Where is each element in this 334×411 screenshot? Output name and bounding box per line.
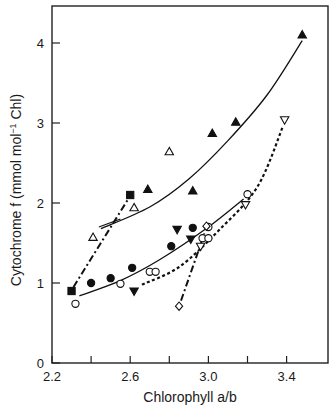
- triangle-up-filled-marker: [189, 187, 197, 194]
- y-tick-label: 0: [37, 356, 44, 371]
- triangle-up-open-marker: [130, 203, 138, 210]
- curve-solid: [79, 199, 243, 296]
- x-tick-label: 2.6: [121, 369, 139, 384]
- circle-open-marker: [152, 268, 159, 275]
- circle-filled-marker: [168, 243, 175, 250]
- triangle-up-open-marker: [165, 147, 173, 154]
- x-axis-ticks: 2.22.63.03.4: [43, 356, 296, 384]
- circle-open-marker: [205, 235, 212, 242]
- x-axis-title: Chlorophyll a/b: [143, 389, 237, 405]
- triangle-down-filled-marker: [173, 226, 181, 233]
- y-tick-label: 1: [37, 276, 44, 291]
- data-markers: [68, 31, 306, 311]
- plot-frame: [52, 6, 328, 363]
- triangle-down-open-marker: [280, 117, 288, 124]
- curve-solid: [101, 41, 302, 229]
- y-axis-ticks: 01234: [37, 36, 60, 371]
- y-tick-label: 3: [37, 116, 44, 131]
- triangle-up-filled-marker: [232, 118, 240, 125]
- triangle-up-filled-marker: [298, 31, 306, 38]
- circle-filled-marker: [88, 279, 95, 286]
- curve-dotted: [142, 127, 283, 285]
- x-tick-label: 2.2: [43, 369, 61, 384]
- circle-open-marker: [117, 280, 124, 287]
- square-filled-marker: [127, 191, 134, 198]
- square-filled-marker: [68, 287, 75, 294]
- chart-canvas: 2.22.63.03.4 01234 Chlorophyll a/b Cytoc…: [0, 0, 334, 411]
- x-tick-label: 3.4: [278, 369, 296, 384]
- fit-curves: [74, 41, 303, 301]
- triangle-down-open-marker: [241, 202, 249, 209]
- triangle-up-open-marker: [89, 233, 97, 240]
- triangle-down-filled-marker: [130, 288, 138, 295]
- triangle-up-filled-marker: [208, 129, 216, 136]
- y-axis-title: Cytochrome f (mmol mol−1 Chl): [8, 94, 24, 286]
- circle-open-marker: [72, 300, 79, 307]
- triangle-up-filled-marker: [144, 185, 152, 192]
- diamond-open-marker: [175, 302, 182, 310]
- triangle-down-filled-marker: [187, 236, 195, 243]
- y-tick-label: 2: [37, 196, 44, 211]
- circle-filled-marker: [129, 264, 136, 271]
- circle-filled-marker: [107, 275, 114, 282]
- curve-solid: [99, 219, 121, 227]
- circle-open-marker: [244, 191, 251, 198]
- curve-dashdot: [74, 199, 129, 287]
- circle-filled-marker: [189, 224, 196, 231]
- y-tick-label: 4: [37, 36, 44, 51]
- x-tick-label: 3.0: [199, 369, 217, 384]
